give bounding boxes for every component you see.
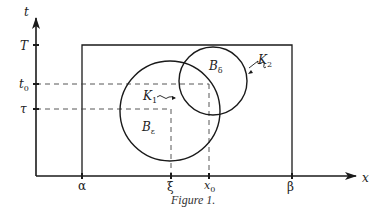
tick-label-beta: β [287,180,294,194]
ball-b-delta [179,47,247,115]
figure-caption: Figure 1. [170,193,215,207]
x-axis-label: x [362,171,369,185]
tick-label-x0: x0 [204,179,215,194]
label-b-delta: Bδ [208,59,223,75]
ball-b-epsilon [120,61,220,161]
label-b-epsilon: Bε [141,120,155,136]
tick-label-xi: ξ [167,180,174,194]
label-k1: K1 [142,89,157,105]
tick-label-T: T [20,39,29,53]
tick-label-t0: t0 [19,77,29,93]
tick-label-alpha: α [78,179,86,193]
y-axis-label: t [24,5,29,19]
tick-label-tau: τ [20,102,27,116]
figure-diagram: t x T t0 τ α ξ x0 β Bε Bδ K1 K2 Figure 1… [0,0,384,218]
label-k2: K2 [257,53,272,69]
